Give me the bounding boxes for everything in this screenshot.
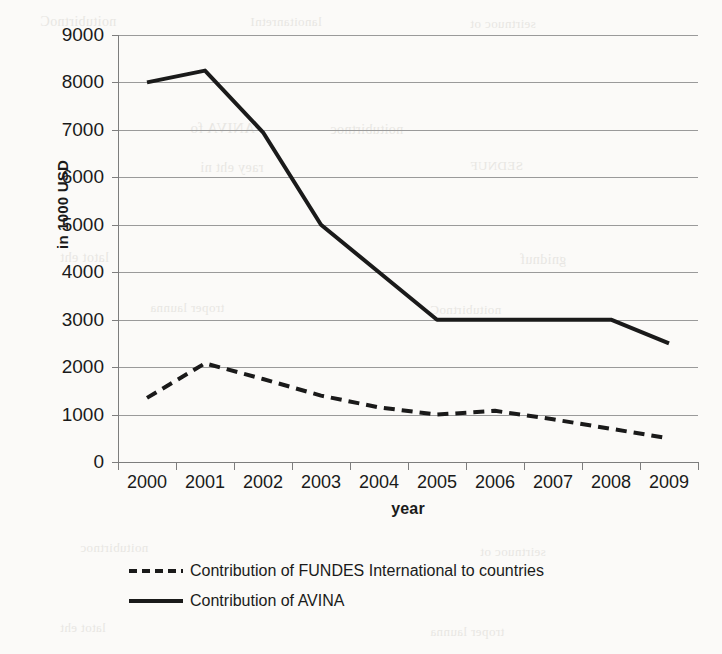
legend-item[interactable]: Contribution of AVINA [128,586,688,616]
series-line-2 [147,71,669,344]
legend-label: Contribution of AVINA [190,592,344,610]
chart-page: noitubirtnoC lanoitanretnI seirtnuoc ot … [0,0,722,654]
x-axis-label: year [118,500,698,518]
legend-label: Contribution of FUNDES International to … [190,562,544,580]
chart-legend: Contribution of FUNDES International to … [128,556,688,616]
legend-item[interactable]: Contribution of FUNDES International to … [128,556,688,586]
dashed-line-icon [128,565,184,577]
line-chart: in 1000 USD 0100020003000400050006000700… [0,0,722,654]
series-line-1 [147,363,669,438]
solid-line-icon [128,595,184,607]
